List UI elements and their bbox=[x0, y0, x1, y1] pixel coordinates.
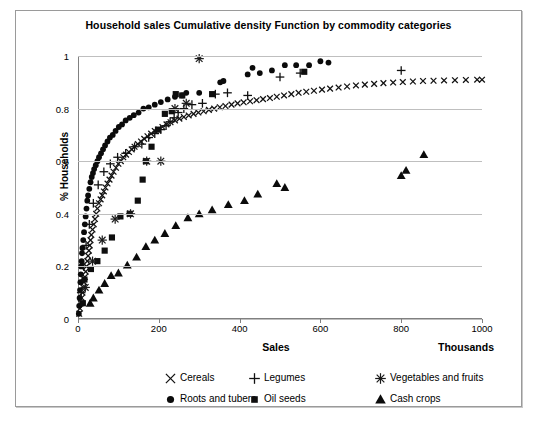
gridline bbox=[78, 109, 482, 110]
y-axis-label: % Households bbox=[59, 112, 70, 222]
y-tick-label: 0.2 bbox=[34, 261, 74, 272]
x-marker-icon bbox=[164, 371, 177, 384]
x-tick-mark bbox=[159, 319, 160, 323]
legend-item-vegetables-and-fruits[interactable]: Vegetables and fruits bbox=[374, 367, 483, 387]
chart-title: Household sales Cumulative density Funct… bbox=[16, 19, 521, 31]
x-tick-mark bbox=[401, 319, 402, 323]
x-tick-label: 800 bbox=[393, 323, 409, 334]
x-tick-label: 1000 bbox=[471, 323, 492, 334]
legend-label: Roots and tubers bbox=[180, 393, 256, 404]
chart-legend: CerealsLegumesVegetables and fruitsRoots… bbox=[146, 367, 476, 409]
plot-area bbox=[78, 56, 482, 319]
circle-marker-icon bbox=[164, 392, 177, 405]
legend-item-oil-seeds[interactable]: Oil seeds bbox=[248, 388, 306, 408]
x-axis-label: Sales bbox=[216, 341, 336, 353]
x-axis-units-label: Thousands bbox=[411, 341, 521, 353]
series-cash-crops bbox=[86, 150, 429, 306]
legend-label: Vegetables and fruits bbox=[390, 372, 483, 383]
x-tick-label: 200 bbox=[151, 323, 167, 334]
legend-label: Cash crops bbox=[390, 393, 441, 404]
gridline bbox=[78, 266, 482, 267]
x-tick-label: 400 bbox=[232, 323, 248, 334]
series-legumes bbox=[77, 66, 406, 297]
x-tick-label: 600 bbox=[312, 323, 328, 334]
triangle-marker-icon bbox=[374, 392, 387, 405]
x-axis-ticks: 02004006008001000 bbox=[78, 323, 482, 339]
square-marker-icon bbox=[248, 392, 261, 405]
data-markers bbox=[78, 56, 482, 319]
x-tick-mark bbox=[240, 319, 241, 323]
y-tick-label: 0 bbox=[34, 314, 74, 325]
legend-item-cash-crops[interactable]: Cash crops bbox=[374, 388, 441, 408]
gridline bbox=[78, 214, 482, 215]
legend-label: Oil seeds bbox=[264, 393, 306, 404]
star-marker-icon bbox=[374, 371, 387, 384]
gridline bbox=[78, 161, 482, 162]
legend-row: CerealsLegumesVegetables and fruits bbox=[146, 367, 476, 387]
legend-item-cereals[interactable]: Cereals bbox=[164, 367, 214, 387]
x-tick-mark bbox=[482, 319, 483, 323]
legend-item-legumes[interactable]: Legumes bbox=[248, 367, 305, 387]
x-tick-label: 0 bbox=[75, 323, 80, 334]
gridline bbox=[78, 56, 482, 57]
x-tick-mark bbox=[320, 319, 321, 323]
chart-frame: Household sales Cumulative density Funct… bbox=[15, 10, 522, 407]
gridline bbox=[78, 319, 482, 320]
x-tick-mark bbox=[78, 319, 79, 323]
y-tick-label: 1 bbox=[34, 51, 74, 62]
series-vegetables-and-fruits bbox=[81, 54, 204, 292]
plus-marker-icon bbox=[248, 371, 261, 384]
legend-row: Roots and tubersOil seedsCash crops bbox=[146, 388, 476, 408]
legend-item-roots-and-tubers[interactable]: Roots and tubers bbox=[164, 388, 256, 408]
legend-label: Cereals bbox=[180, 372, 214, 383]
legend-label: Legumes bbox=[264, 372, 305, 383]
